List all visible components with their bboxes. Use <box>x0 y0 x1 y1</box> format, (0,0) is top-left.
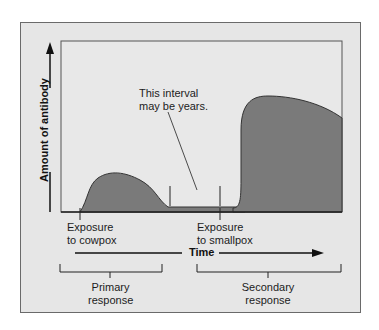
primary-label-line-1: Primary <box>88 281 133 294</box>
time-axis-arrowhead-icon <box>312 249 324 257</box>
cowpox-label-line-1: Exposure <box>67 221 117 234</box>
x-axis-label: Time <box>189 246 214 258</box>
smallpox-exposure-label: Exposure to smallpox <box>197 221 253 247</box>
cowpox-label-line-2: to cowpox <box>67 234 117 247</box>
secondary-response-bracket <box>197 264 341 278</box>
annotation-line-2: may be years. <box>139 100 208 113</box>
y-axis-arrowhead-icon <box>46 42 54 54</box>
secondary-label-line-1: Secondary <box>240 281 296 294</box>
secondary-response-curve <box>233 96 342 212</box>
secondary-label-line-2: response <box>240 294 296 307</box>
smallpox-label-line-1: Exposure <box>197 221 253 234</box>
secondary-response-label: Secondary response <box>240 281 296 307</box>
primary-response-label: Primary response <box>88 281 133 307</box>
primary-response-bracket <box>60 264 162 278</box>
primary-label-line-2: response <box>88 294 133 307</box>
y-axis-label: Amount of antibody <box>38 78 50 182</box>
annotation-line-1: This interval <box>139 87 208 100</box>
interval-annotation: This interval may be years. <box>139 87 208 113</box>
cowpox-exposure-label: Exposure to cowpox <box>67 221 117 247</box>
antibody-response-plot <box>0 0 379 330</box>
